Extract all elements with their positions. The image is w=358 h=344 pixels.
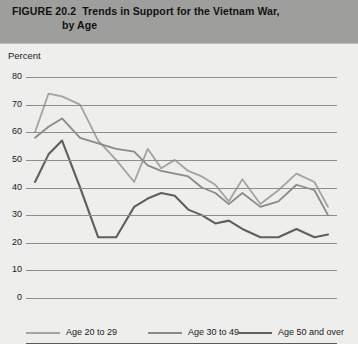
gridline-0 <box>26 298 337 299</box>
legend-swatch-icon <box>238 332 272 334</box>
legend-label: Age 20 to 29 <box>66 326 117 339</box>
gridline-40 <box>26 188 337 189</box>
y-tick-label-80: 80 <box>4 72 22 81</box>
y-tick-label-60: 60 <box>4 127 22 136</box>
gridline-20 <box>26 243 337 244</box>
gridline-10 <box>26 270 337 271</box>
y-tick-label-10: 10 <box>4 265 22 274</box>
legend-label: Age 30 to 49 <box>188 326 239 339</box>
y-axis-title: Percent <box>8 50 41 61</box>
figure-title-line2: by Age <box>62 19 350 33</box>
legend-swatch-icon <box>148 332 182 334</box>
gridline-60 <box>26 132 337 133</box>
series-line-age-20-to-29 <box>35 94 328 207</box>
y-tick-label-50: 50 <box>4 155 22 164</box>
chart-legend: Age 20 to 29Age 30 to 49Age 50 and over <box>0 326 358 344</box>
figure-title: FIGURE 20.2Trends in Support for the Vie… <box>12 5 350 32</box>
figure-container: FIGURE 20.2Trends in Support for the Vie… <box>0 0 358 344</box>
figure-title-line1: Trends in Support for the Vietnam War, <box>82 5 280 17</box>
y-tick-label-30: 30 <box>4 210 22 219</box>
gridline-50 <box>26 160 337 161</box>
figure-number: FIGURE 20.2 <box>12 5 76 17</box>
y-tick-label-0: 0 <box>4 293 22 302</box>
gridline-70 <box>26 105 337 106</box>
chart-panel: Percent 01020304050607080 19651966196719… <box>0 44 358 344</box>
figure-title-band: FIGURE 20.2Trends in Support for the Vie… <box>0 0 358 44</box>
series-line-age-50-and-over <box>35 141 328 238</box>
y-tick-label-70: 70 <box>4 100 22 109</box>
y-tick-label-40: 40 <box>4 183 22 192</box>
gridline-80 <box>26 77 337 78</box>
legend-label: Age 50 and over <box>278 326 344 339</box>
legend-swatch-icon <box>26 332 60 334</box>
plot-area <box>26 77 337 298</box>
gridline-30 <box>26 215 337 216</box>
y-tick-label-20: 20 <box>4 238 22 247</box>
